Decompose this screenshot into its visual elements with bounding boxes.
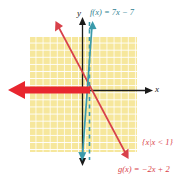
x-axis-label: x: [155, 85, 159, 94]
graph-figure: y x f(x) = 7x − 7 g(x) = −2x + 2 {x|x < …: [0, 0, 188, 187]
solution-set-label: {x|x < 1}: [142, 138, 173, 147]
y-axis-label: y: [77, 9, 81, 18]
f-function-label: f(x) = 7x − 7: [90, 8, 134, 17]
g-function-label: g(x) = −2x + 2: [118, 165, 170, 174]
graph-canvas: [0, 0, 188, 187]
